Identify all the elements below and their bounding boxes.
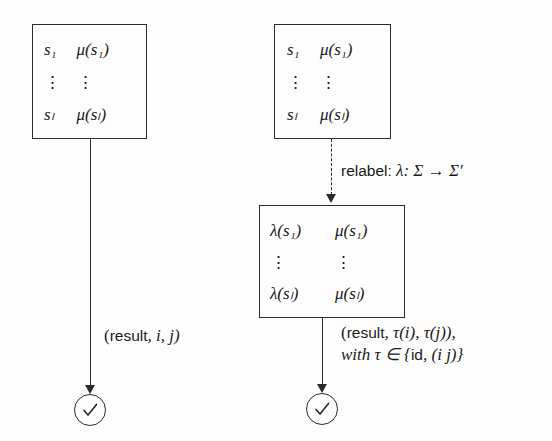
table-cell-state: sₗ — [44, 104, 77, 125]
table-cell-measure: ⋮ — [320, 72, 380, 93]
table-cell-measure: μ(s₁) — [320, 40, 380, 60]
right-result-line1: (result, τ(i), τ(j)), — [341, 323, 456, 342]
transposition: , (i j)} — [423, 345, 463, 364]
edge-label-right-result: (result, τ(i), τ(j)), with τ ∈ {id, (i j… — [341, 322, 463, 366]
relabel-math: λ: Σ → Σ′ — [396, 161, 463, 180]
table-row: s₁ μ(s₁) — [287, 34, 380, 65]
check-icon — [80, 400, 100, 420]
arrowhead-left — [85, 385, 95, 394]
table-cell-measure: μ(s₁) — [335, 221, 396, 241]
table-row: sₗ μ(sₗ) — [287, 99, 380, 130]
edge-label-left-result: (result, i, j) — [104, 325, 180, 347]
table-row: ⋮ ⋮ — [287, 67, 380, 98]
table-cell-measure: μ(s₁) — [77, 40, 136, 60]
table-cell-state: s₁ — [44, 40, 77, 60]
table-cell-state: s₁ — [287, 40, 320, 60]
table-cell-measure: μ(sₗ) — [320, 104, 380, 125]
accept-check-right — [306, 393, 338, 425]
result-indices: , τ(i), τ(j)), — [385, 323, 456, 342]
edge-right-vertical — [322, 318, 323, 390]
relabeled-table: λ(s₁) μ(s₁) ⋮ ⋮ λ(sₗ) μ(sₗ) — [259, 205, 405, 318]
table-cell-relabeled-state: ⋮ — [270, 252, 335, 273]
table-row: ⋮ ⋮ — [270, 247, 396, 278]
table-cell-state: sₗ — [287, 104, 320, 125]
result-word: result — [347, 324, 385, 341]
arrowhead-relabel — [326, 194, 336, 203]
table-row: λ(sₗ) μ(sₗ) — [270, 278, 396, 309]
result-word: result — [110, 327, 148, 344]
table-row: ⋮ ⋮ — [44, 67, 136, 98]
table-row: sₗ μ(sₗ) — [44, 99, 136, 130]
table-cell-relabeled-state: λ(s₁) — [270, 221, 335, 241]
with-tau: with τ ∈ { — [341, 345, 411, 364]
result-indices: , i, j) — [148, 326, 180, 345]
diagram-canvas: s₁ μ(s₁) ⋮ ⋮ sₗ μ(sₗ) (result, i, j) s₁ … — [0, 0, 552, 441]
table-row: s₁ μ(s₁) — [44, 34, 136, 65]
edge-left-vertical — [90, 139, 91, 391]
table-cell-relabeled-state: λ(sₗ) — [270, 283, 335, 304]
check-icon — [312, 399, 332, 419]
accept-check-left — [74, 394, 106, 426]
table-cell-measure: μ(sₗ) — [335, 283, 396, 304]
arrowhead-right — [317, 384, 327, 393]
table-cell-measure: ⋮ — [77, 72, 136, 93]
right-result-line2: with τ ∈ {id, (i j)} — [341, 344, 463, 366]
table-cell-state: ⋮ — [44, 72, 77, 93]
table-cell-state: ⋮ — [287, 72, 320, 93]
table-cell-measure: μ(sₗ) — [77, 104, 136, 125]
edge-label-relabel: relabel: λ: Σ → Σ′ — [341, 160, 463, 182]
original-table-left: s₁ μ(s₁) ⋮ ⋮ sₗ μ(sₗ) — [32, 24, 147, 139]
edge-relabel-dashed — [331, 139, 332, 195]
identity-word: id — [411, 346, 423, 363]
relabel-word: relabel: — [341, 162, 392, 179]
original-table-right: s₁ μ(s₁) ⋮ ⋮ sₗ μ(sₗ) — [274, 24, 391, 139]
table-row: λ(s₁) μ(s₁) — [270, 215, 396, 246]
table-cell-measure: ⋮ — [335, 252, 396, 273]
